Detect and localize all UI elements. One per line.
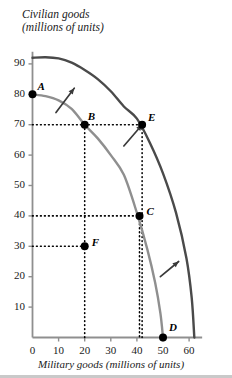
y-tick-label: 90 <box>3 56 25 68</box>
y-tick-label: 50 <box>3 178 25 190</box>
data-point-D <box>159 334 167 342</box>
x-tick-label: 30 <box>100 344 122 356</box>
plot-area <box>0 0 232 378</box>
ppf-chart-figure: Civilian goods (millions of units) 10203… <box>0 0 232 378</box>
ppf-curves <box>33 57 195 337</box>
growth-arrow-lower-right <box>160 262 178 277</box>
y-tick-label: 60 <box>3 148 25 160</box>
y-tick-label: 40 <box>3 208 25 220</box>
data-point-E <box>138 121 146 129</box>
point-label-A: A <box>38 80 45 92</box>
x-tick-label: 40 <box>126 344 148 356</box>
point-label-C: C <box>147 205 154 217</box>
point-label-E: E <box>148 111 155 123</box>
growth-arrows <box>56 88 179 276</box>
x-tick-label: 60 <box>178 344 200 356</box>
y-tick-label: 70 <box>3 117 25 129</box>
x-tick-label: 10 <box>48 344 70 356</box>
y-tick-label: 10 <box>3 300 25 312</box>
x-axis-title: Military goods (millions of units) <box>38 358 184 371</box>
dotted-guide-lines <box>33 125 143 338</box>
point-label-B: B <box>88 110 95 122</box>
point-label-D: D <box>169 321 177 333</box>
data-point-C <box>136 212 144 220</box>
x-tick-label: 0 <box>22 344 44 356</box>
data-point-A <box>29 90 37 98</box>
growth-arrow-middle <box>124 125 142 146</box>
y-tick-label: 20 <box>3 269 25 281</box>
x-tick-label: 50 <box>152 344 174 356</box>
data-point-F <box>81 242 89 250</box>
y-tick-label: 80 <box>3 87 25 99</box>
x-tick-label: 20 <box>74 344 96 356</box>
data-point-B <box>81 121 89 129</box>
point-label-F: F <box>92 236 99 248</box>
y-tick-label: 30 <box>3 239 25 251</box>
